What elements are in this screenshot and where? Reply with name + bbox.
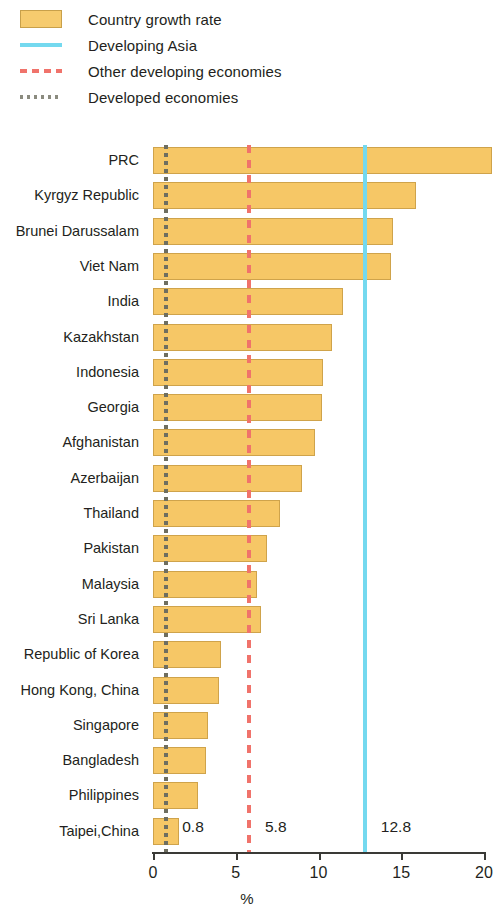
bar-row	[153, 394, 322, 421]
category-label: Singapore	[73, 717, 139, 733]
category-label: Thailand	[83, 505, 139, 521]
bar-row	[153, 747, 206, 774]
bar-row	[153, 500, 280, 527]
category-label: Georgia	[87, 399, 139, 415]
category-label: Indonesia	[76, 364, 139, 380]
bar-row	[153, 571, 257, 598]
bar-row	[153, 182, 416, 209]
x-tick-mark	[484, 852, 486, 860]
reference-line-dotted	[164, 145, 168, 852]
category-label: Bangladesh	[62, 752, 139, 768]
bar-row	[153, 606, 261, 633]
category-label: Azerbaijan	[70, 470, 139, 486]
category-label: PRC	[108, 152, 139, 168]
x-tick-label: 20	[475, 864, 493, 882]
bar	[153, 606, 261, 633]
x-tick-label: 15	[392, 864, 410, 882]
x-tick-label: 0	[149, 864, 158, 882]
bar	[153, 677, 219, 704]
category-label: Viet Nam	[80, 258, 139, 274]
category-label: Philippines	[69, 787, 139, 803]
reference-line-dashed	[247, 145, 251, 852]
bar	[153, 394, 322, 421]
category-label: Kyrgyz Republic	[34, 187, 139, 203]
bar	[153, 253, 391, 280]
bar	[153, 182, 416, 209]
bar-row	[153, 147, 492, 174]
plot-area	[153, 145, 484, 852]
bar	[153, 465, 302, 492]
category-label: Pakistan	[83, 540, 139, 556]
bar-row	[153, 677, 219, 704]
category-label: Kazakhstan	[63, 329, 139, 345]
bar	[153, 147, 492, 174]
category-label: Brunei Darussalam	[16, 223, 139, 239]
category-label: Afghanistan	[62, 434, 139, 450]
x-tick-mark	[319, 852, 321, 860]
x-axis-title: %	[0, 890, 494, 907]
bar	[153, 359, 323, 386]
bar-row	[153, 782, 198, 809]
bar-row	[153, 712, 208, 739]
bar-row	[153, 253, 391, 280]
bar	[153, 641, 221, 668]
bar-row	[153, 218, 393, 245]
bar	[153, 218, 393, 245]
category-label: Sri Lanka	[78, 611, 139, 627]
bar	[153, 782, 198, 809]
reference-line-solid	[363, 145, 367, 852]
x-tick-mark	[153, 852, 155, 860]
category-label: Republic of Korea	[24, 646, 139, 662]
bar-row	[153, 641, 221, 668]
reference-value-label: 0.8	[182, 818, 204, 836]
reference-value-label: 12.8	[381, 818, 411, 836]
bar	[153, 429, 315, 456]
bar-row	[153, 465, 302, 492]
bar-chart: PRCKyrgyz RepublicBrunei DarussalamViet …	[0, 0, 494, 914]
x-tick-mark	[236, 852, 238, 860]
category-label: Taipei,China	[59, 823, 139, 839]
bar	[153, 712, 208, 739]
bar	[153, 324, 332, 351]
category-axis-labels: PRCKyrgyz RepublicBrunei DarussalamViet …	[0, 145, 147, 852]
x-tick-label: 10	[310, 864, 328, 882]
x-tick-label: 5	[231, 864, 240, 882]
bar-row	[153, 359, 323, 386]
reference-value-label: 5.8	[265, 818, 287, 836]
category-label: India	[108, 293, 139, 309]
bar	[153, 747, 206, 774]
bar	[153, 500, 280, 527]
bar-row	[153, 324, 332, 351]
category-label: Malaysia	[82, 576, 139, 592]
category-label: Hong Kong, China	[21, 682, 140, 698]
x-tick-mark	[401, 852, 403, 860]
bar-row	[153, 429, 315, 456]
bar	[153, 571, 257, 598]
